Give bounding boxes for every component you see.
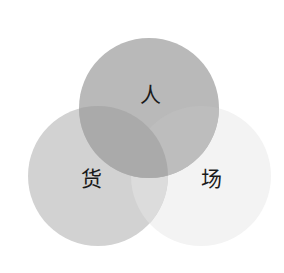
label-goods: 货: [76, 167, 106, 191]
venn-diagram: 人 货 场: [0, 0, 284, 273]
label-place: 场: [196, 167, 226, 191]
venn-svg: [0, 0, 284, 273]
label-people: 人: [135, 83, 165, 107]
